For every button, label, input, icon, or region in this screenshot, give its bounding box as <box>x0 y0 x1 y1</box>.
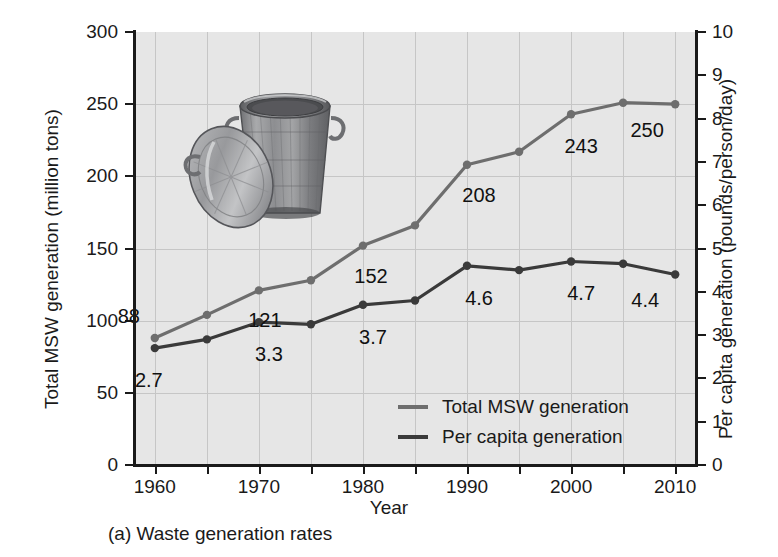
data-point-label: 4.7 <box>567 282 595 305</box>
data-point-label: 208 <box>462 183 495 206</box>
data-point-marker <box>411 296 419 304</box>
data-point-marker <box>567 110 575 118</box>
data-point-marker <box>463 262 471 270</box>
data-point-label: 3.3 <box>255 343 283 366</box>
data-point-marker <box>671 270 679 278</box>
data-point-marker <box>463 161 471 169</box>
legend-label-total-msw: Total MSW generation <box>442 396 629 418</box>
data-point-marker <box>619 260 627 268</box>
data-point-label: 250 <box>630 119 663 142</box>
data-point-marker <box>307 276 315 284</box>
data-point-marker <box>203 311 211 319</box>
data-point-label: 3.7 <box>359 325 387 348</box>
data-point-marker <box>515 266 523 274</box>
data-point-label: 121 <box>248 309 281 332</box>
data-point-marker <box>255 286 263 294</box>
legend: Total MSW generation Per capita generati… <box>398 392 629 452</box>
data-point-marker <box>411 221 419 229</box>
data-point-marker <box>567 257 575 265</box>
data-point-label: 4.4 <box>631 289 659 312</box>
data-point-marker <box>151 334 159 342</box>
data-point-label: 88 <box>118 304 140 327</box>
data-point-marker <box>619 99 627 107</box>
data-point-label: 2.7 <box>135 369 163 392</box>
x-axis-line <box>133 464 698 467</box>
legend-item-per-capita: Per capita generation <box>398 422 629 452</box>
figure-caption: (a) Waste generation rates <box>108 523 332 545</box>
data-point-marker <box>515 148 523 156</box>
data-point-marker <box>671 100 679 108</box>
y-axis-right-title: Per capita generation (pounds/person/day… <box>715 49 737 469</box>
legend-label-per-capita: Per capita generation <box>442 426 623 448</box>
data-point-marker <box>151 344 159 352</box>
y-axis-right-line <box>695 30 698 467</box>
data-point-marker <box>359 241 367 249</box>
data-point-marker <box>203 335 211 343</box>
x-axis-title: Year <box>0 497 778 519</box>
series-layer <box>0 0 778 557</box>
legend-item-total-msw: Total MSW generation <box>398 392 629 422</box>
waste-generation-figure: 0501001502002503000123456789101960197019… <box>0 0 778 557</box>
data-point-label: 4.6 <box>465 286 493 309</box>
y-axis-left-title: Total MSW generation (million tons) <box>41 49 63 469</box>
data-point-label: 243 <box>564 135 597 158</box>
data-point-marker <box>359 301 367 309</box>
data-point-marker <box>307 320 315 328</box>
series-line-per-capita <box>155 262 675 349</box>
y-axis-left-line <box>133 30 136 467</box>
data-point-label: 152 <box>354 264 387 287</box>
legend-swatch-per-capita <box>398 435 428 439</box>
legend-swatch-total-msw <box>398 405 428 409</box>
